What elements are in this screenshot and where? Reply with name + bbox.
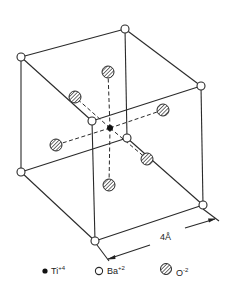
edge-bottom-left [21,172,95,241]
barium-atom [91,237,99,245]
oxygen-atom-right [157,104,169,116]
cube-edges [21,29,203,241]
edge-top-right [125,29,201,86]
barium-atom [17,168,25,176]
edge-bottom-back [21,138,127,172]
titanium-atom [107,125,113,131]
edge-vertical-front [92,121,95,241]
bond-bottom [109,128,110,185]
barium-atom [17,53,25,61]
edge-bottom-front [95,205,203,241]
dimension-marker: 4Å [97,209,219,261]
legend-ti-label: Ti+4 [51,265,66,276]
legend-o-label: O-2 [176,267,189,278]
bond-front [110,128,147,159]
oxygen-atom-left [50,139,62,151]
perovskite-unit-cell-diagram: 4Å Ti+4 Ba+2 O-2 [0,0,231,290]
legend-ti-icon [42,268,47,273]
edge-bottom-right [127,138,203,205]
oxygen-atom-bottom [103,179,115,191]
legend-ba-label: Ba+2 [107,265,126,276]
legend-o-icon [161,264,172,275]
edge-top-back [21,29,125,57]
barium-atom [199,201,207,209]
barium-atom [197,82,205,90]
edge-vertical-back [125,29,127,138]
edge-vertical-right [201,86,203,205]
bond-top [108,72,110,128]
barium-atom [88,117,96,125]
arrow-left-icon [107,255,116,260]
legend-ba-icon [95,267,102,274]
edge-top-left [21,57,92,121]
legend: Ti+4 Ba+2 O-2 [42,264,189,279]
extension-line-left [97,245,109,261]
oxygen-atom-top [102,66,114,78]
oxygen-atom-back [69,91,81,103]
dimension-label: 4Å [160,232,171,242]
oxygen-atom-front [141,153,153,165]
arrow-right-icon [208,219,216,223]
barium-atoms [17,25,207,245]
barium-atom [123,134,131,142]
bond-left [56,128,110,145]
edge-top-front [92,86,201,121]
barium-atom [121,25,129,33]
